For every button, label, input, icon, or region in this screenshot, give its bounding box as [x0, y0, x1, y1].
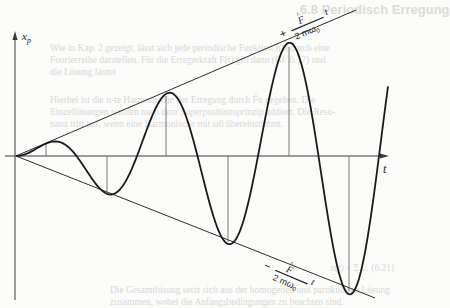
lower-numerator: F [284, 263, 296, 276]
y-axis-arrow-icon [13, 31, 18, 40]
upper-denominator: 2 mω0 [293, 22, 321, 42]
upper-sign: + [278, 27, 289, 41]
x-axis-label: t [383, 162, 387, 176]
lower-variable: t [310, 276, 317, 287]
upper-envelope-label: + ^ F 2 mω0 t [274, 0, 334, 47]
axes [5, 31, 389, 300]
upper-numerator: F [295, 13, 307, 26]
y-axis-label: xp [21, 30, 31, 45]
upper-variable: t [322, 6, 329, 17]
lower-sign: − [262, 259, 273, 273]
envelopes [16, 10, 375, 298]
lower-denominator: 2 mω0 [271, 272, 299, 292]
response-curve [16, 43, 388, 294]
extremum-guides [46, 47, 349, 291]
x-axis-arrow-icon [380, 154, 389, 159]
lower-envelope-label: − ^ F 2 mω0 t [259, 251, 319, 298]
